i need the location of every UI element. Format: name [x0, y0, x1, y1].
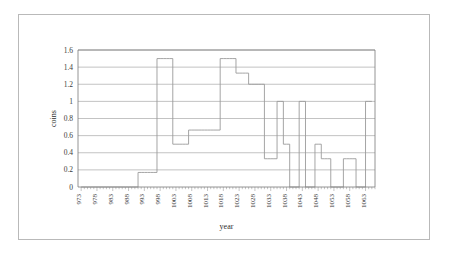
- line-chart: 00.20.40.60.811.21.41.6 9739789839889939…: [0, 0, 450, 256]
- x-tick-label: 1053: [328, 194, 336, 209]
- x-tick-label: 1013: [202, 194, 210, 209]
- x-tick-label: 1028: [249, 193, 257, 208]
- x-tick-label: 1003: [170, 194, 178, 209]
- x-tick-label: 978: [91, 194, 99, 205]
- x-tick-label: 988: [123, 194, 131, 205]
- x-tick-label: 1063: [360, 194, 368, 209]
- y-tick-label: 1.4: [64, 63, 74, 72]
- x-tick-label: 1033: [265, 194, 273, 209]
- y-tick-label: 0: [69, 183, 73, 192]
- x-tick-label: 1048: [312, 194, 320, 209]
- x-tick-label: 998: [154, 194, 162, 205]
- y-tick-label: 1: [69, 97, 73, 106]
- x-tick-label: 993: [138, 194, 146, 205]
- x-tick-label: 1038: [281, 194, 289, 209]
- x-axis-title: year: [220, 222, 234, 231]
- x-tick-label: 983: [107, 194, 115, 205]
- x-tick-label: 1043: [296, 194, 304, 209]
- x-tick-label: 1023: [233, 194, 241, 209]
- chart-canvas: 00.20.40.60.811.21.41.6 9739789839889939…: [0, 0, 450, 256]
- y-tick-label: 1.6: [64, 46, 74, 55]
- x-tick-label: 973: [75, 194, 83, 205]
- x-tick-label: 1058: [344, 194, 352, 209]
- x-tick-label: 1018: [217, 194, 225, 209]
- x-tick-label-group: 9739789839889939981003100810131018102310…: [75, 193, 367, 208]
- y-axis-title: coins: [49, 110, 58, 127]
- data-series-coins: [81, 59, 372, 187]
- y-tick-label: 0.8: [64, 114, 74, 123]
- y-tick-label: 0.4: [64, 148, 74, 157]
- x-tick-group: [81, 187, 375, 191]
- y-tick-label: 0.6: [64, 131, 74, 140]
- x-tick-label: 1008: [186, 194, 194, 209]
- y-tick-label: 0.2: [64, 165, 74, 174]
- y-tick-label: 1.2: [64, 80, 74, 89]
- gridline-group: [78, 50, 375, 170]
- y-tick-label-group: 00.20.40.60.811.21.41.6: [64, 46, 74, 192]
